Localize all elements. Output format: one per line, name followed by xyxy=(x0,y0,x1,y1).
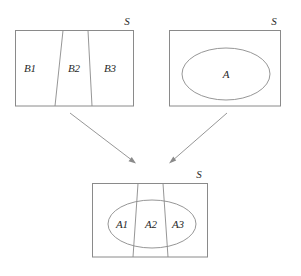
region-label-b3: B3 xyxy=(104,62,117,74)
universe-label-partition: S xyxy=(124,15,130,27)
region-label-a3: A3 xyxy=(171,218,185,230)
universe-label-intersection: S xyxy=(196,168,202,180)
arrow-from-event-line xyxy=(172,113,227,161)
region-label-a1: A1 xyxy=(115,218,128,230)
region-label-a: A xyxy=(222,68,230,80)
partition-diagram: B1 B2 B3 S A S A1 xyxy=(0,0,301,276)
universe-label-event: S xyxy=(271,15,277,27)
partition-panel: B1 B2 B3 S xyxy=(16,15,134,106)
arrow-from-partition xyxy=(70,113,136,164)
region-label-b1: B1 xyxy=(24,62,36,74)
figure-root: B1 B2 B3 S A S A1 xyxy=(0,0,301,276)
intersection-panel: A1 A2 A3 S xyxy=(93,168,208,257)
arrow-from-event-head xyxy=(169,157,176,164)
event-panel: A S xyxy=(170,15,281,106)
arrow-from-partition-line xyxy=(70,113,133,161)
arrow-from-event xyxy=(169,113,227,164)
region-label-a2: A2 xyxy=(144,218,158,230)
region-label-b2: B2 xyxy=(68,62,81,74)
